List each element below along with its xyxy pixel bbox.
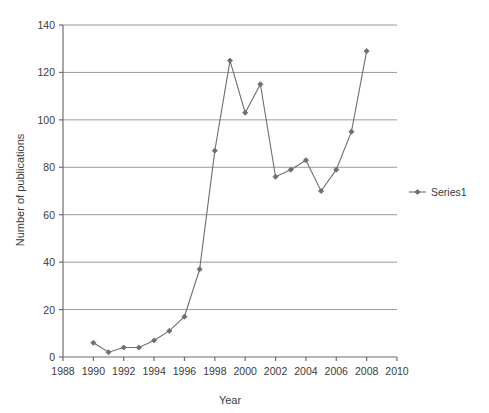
x-tick-label-1988: 1988 [51,365,75,377]
chart-background [0,0,489,413]
x-tick-label-1996: 1996 [173,365,197,377]
x-tick-label-2010: 2010 [385,365,409,377]
y-tick-label-20: 20 [43,304,55,316]
y-tick-label-60: 60 [43,209,55,221]
x-tick-label-1990: 1990 [82,365,106,377]
chart-container: 020406080100120140 198819901992199419961… [0,0,489,413]
x-tick-label-2000: 2000 [234,365,258,377]
x-tick-label-2008: 2008 [355,365,379,377]
y-tick-label-140: 140 [37,19,55,31]
y-tick-label-120: 120 [37,66,55,78]
x-tick-label-2004: 2004 [294,365,318,377]
publications-line-chart: 020406080100120140 198819901992199419961… [0,0,489,413]
y-axis-title: Number of publications [14,133,26,246]
y-tick-label-0: 0 [49,351,55,363]
y-tick-label-80: 80 [43,161,55,173]
y-tick-label-40: 40 [43,256,55,268]
legend-label: Series1 [431,186,467,198]
x-tick-label-2006: 2006 [325,365,349,377]
x-tick-label-1998: 1998 [203,365,227,377]
y-tick-label-100: 100 [37,114,55,126]
x-axis-title: Year [219,394,242,406]
x-tick-label-2002: 2002 [264,365,288,377]
x-tick-label-1992: 1992 [112,365,136,377]
x-tick-label-1994: 1994 [142,365,166,377]
